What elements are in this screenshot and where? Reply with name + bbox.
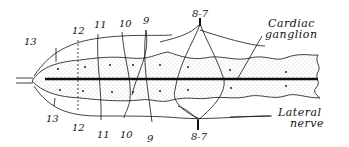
lateral-label-line2: nerve <box>290 117 324 130</box>
callout-lateral-nerve: Lateral nerve <box>277 106 324 130</box>
label-13-top: 13 <box>24 36 37 47</box>
label-13-bottom: 13 <box>46 113 59 124</box>
cardiac-ganglion-diagram: 13 12 11 10 9 8-7 13 12 11 10 9 8-7 Card… <box>0 0 349 147</box>
label-11-bottom: 11 <box>97 129 110 140</box>
label-8-7-top: 8-7 <box>192 8 209 19</box>
callout-cardiac-ganglion: Cardiac ganglion <box>265 17 317 41</box>
diagram-canvas: 13 12 11 10 9 8-7 13 12 11 10 9 8-7 Card… <box>0 0 349 147</box>
top-nerve-labels: 13 12 11 10 9 8-7 <box>24 8 209 47</box>
lateral-nerve-leader <box>230 116 272 117</box>
label-9-top: 9 <box>143 15 150 26</box>
label-11-top: 11 <box>94 19 107 30</box>
label-9-bottom: 9 <box>147 133 154 144</box>
label-10-top: 10 <box>119 18 132 29</box>
heart-outline <box>32 52 320 101</box>
cardiac-label-line2: ganglion <box>265 28 317 41</box>
label-12-top: 12 <box>72 25 85 36</box>
bottom-nerve-labels: 13 12 11 10 9 8-7 <box>46 113 208 144</box>
label-10-bottom: 10 <box>120 129 133 140</box>
label-12-bottom: 12 <box>72 122 85 133</box>
aorta-tube <box>16 78 33 83</box>
label-8-7-bottom: 8-7 <box>191 131 208 142</box>
